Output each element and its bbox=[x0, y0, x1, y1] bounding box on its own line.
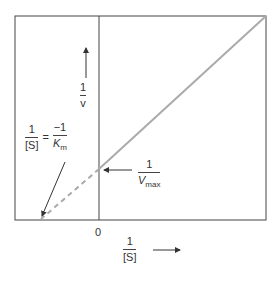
y-intercept-label: 1Vmax bbox=[138, 159, 160, 189]
plot-frame bbox=[15, 16, 266, 220]
extrapolated-line bbox=[41, 169, 99, 219]
y-axis-label: 1v bbox=[80, 82, 86, 109]
x-intercept-arrow-icon bbox=[42, 162, 65, 216]
regression-line bbox=[99, 16, 266, 169]
x-axis-label: 1[S] bbox=[123, 236, 136, 263]
origin-label: 0 bbox=[95, 227, 101, 238]
x-intercept-label: 1[S] = −1Km bbox=[25, 122, 67, 152]
